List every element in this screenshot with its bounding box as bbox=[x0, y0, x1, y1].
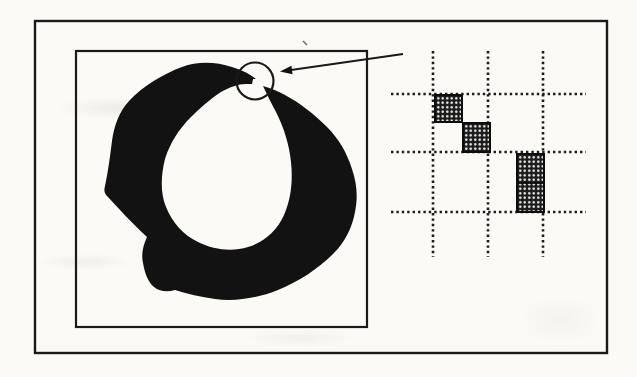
boundary-pixel bbox=[516, 153, 545, 213]
blob-region bbox=[104, 63, 356, 300]
arrow-line bbox=[284, 54, 403, 71]
scanned-figure bbox=[0, 0, 637, 377]
arrow-head-icon bbox=[280, 66, 293, 74]
boundary-pixel bbox=[434, 94, 463, 123]
pixel-divider bbox=[518, 182, 543, 184]
scan-speck bbox=[303, 41, 307, 45]
boundary-pixel bbox=[462, 122, 491, 153]
